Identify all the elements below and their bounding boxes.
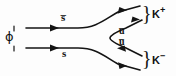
- quark-flow-diagram: ϕ s̅ s u̅ u̅ } } K+ K−: [0, 0, 176, 76]
- s-out-arrowhead: [118, 62, 127, 69]
- sbar-out-arrowhead: [118, 7, 128, 14]
- kminus-label: K−: [152, 52, 165, 66]
- s-label: s: [62, 48, 66, 59]
- sbar-label: s̅: [61, 12, 65, 23]
- phi-meson-label: ϕ: [5, 30, 14, 43]
- kplus-charge: +: [160, 5, 165, 15]
- s-arrowhead: [50, 45, 59, 52]
- kplus-label: K+: [152, 6, 165, 20]
- kplus-symbol: K: [152, 8, 160, 20]
- kminus-brace: }: [142, 48, 152, 68]
- u-ubar-pair-line: [110, 20, 142, 56]
- kplus-brace: }: [142, 3, 152, 23]
- sbar-arrowhead: [50, 25, 59, 32]
- ubar-label: u̅: [119, 37, 125, 47]
- kminus-charge: −: [160, 51, 165, 61]
- kminus-symbol: K: [152, 54, 160, 66]
- u-label: u̅: [119, 26, 125, 36]
